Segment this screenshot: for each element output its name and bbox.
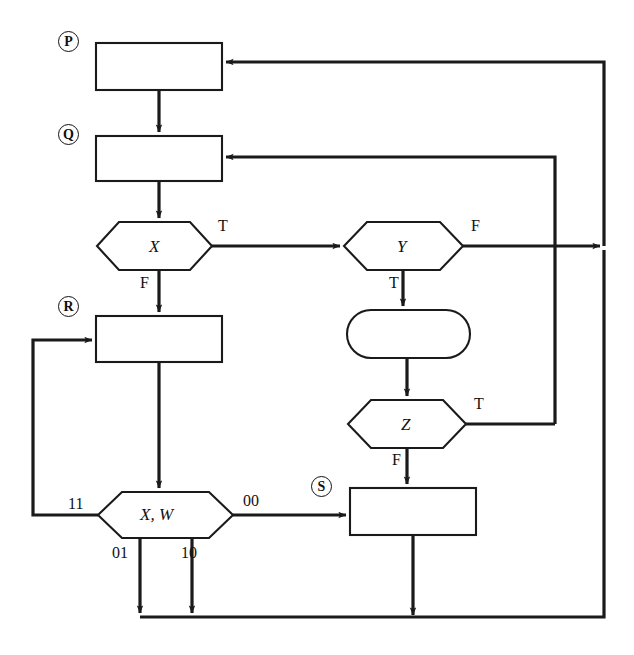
node-label-y: Y — [397, 238, 406, 255]
edge-label-z-true: T — [474, 396, 484, 412]
node-box-p — [96, 43, 222, 90]
edge-label-x-false: F — [140, 275, 149, 291]
node-label-z: Z — [401, 416, 410, 433]
node-label-x: X — [149, 238, 159, 255]
edge-label-y-false: F — [471, 218, 480, 234]
edge-label-z-false: F — [392, 452, 401, 468]
edge-label-xw-01: 01 — [112, 545, 128, 561]
flowchart-canvas: P Q R S X X, W Y Z T F F T T F 11 00 01 … — [0, 0, 634, 655]
node-process-stadium — [347, 310, 470, 358]
node-box-s — [350, 488, 476, 535]
state-marker-p: P — [58, 31, 79, 52]
edge-label-xw-00: 00 — [243, 493, 259, 509]
state-marker-r: R — [58, 296, 79, 317]
edge-label-xw-11: 11 — [68, 496, 83, 512]
edge-label-xw-10: 10 — [181, 545, 197, 561]
node-box-q — [96, 136, 222, 181]
edge-label-y-true: T — [389, 275, 399, 291]
flowchart-svg — [0, 0, 634, 655]
edge-xw-11-left-loop — [33, 340, 98, 515]
state-marker-s: S — [311, 476, 332, 497]
node-box-r — [96, 316, 222, 362]
rail-outer-right-to-p — [226, 62, 604, 246]
node-label-xw: X, W — [140, 506, 173, 523]
edge-label-x-true: T — [218, 218, 228, 234]
state-marker-q: Q — [58, 124, 79, 145]
